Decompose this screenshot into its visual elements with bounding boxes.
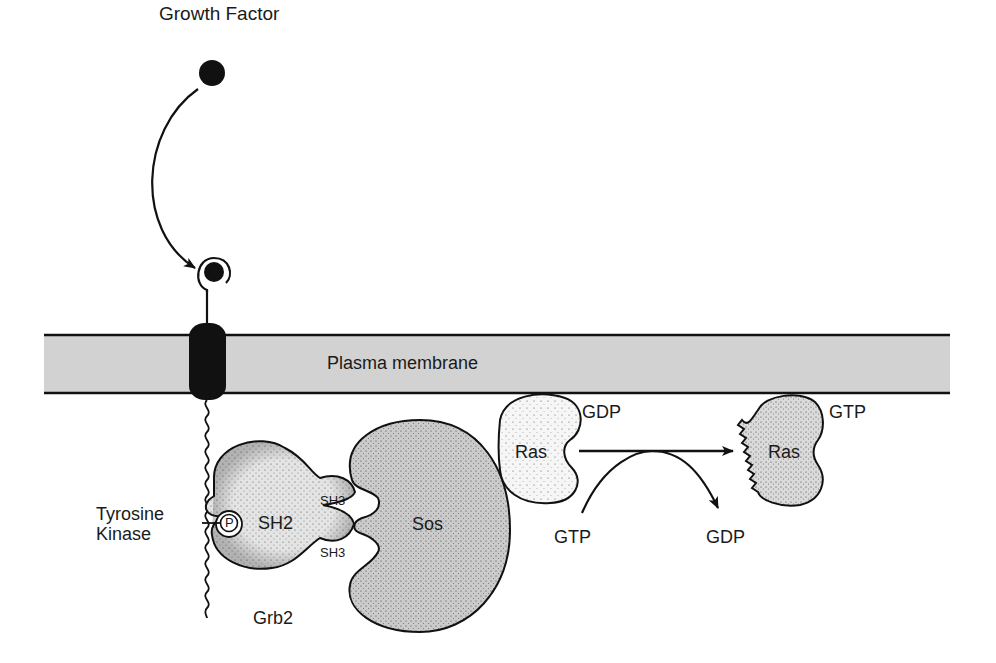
growth-factor-ligand <box>199 60 225 86</box>
ras-gdp-label: Ras <box>515 443 547 461</box>
sos-label: Sos <box>412 515 443 533</box>
growth-factor-label: Growth Factor <box>159 4 279 23</box>
binding-arrow <box>152 89 198 268</box>
gdp-output-label: GDP <box>706 528 745 546</box>
plasma-membrane-label: Plasma membrane <box>327 354 478 372</box>
gtp-gdp-exchange-arrow <box>582 451 718 513</box>
sh3-bottom-label: SH3 <box>320 546 345 559</box>
tyrosine-kinase-label-line1: Tyrosine <box>96 505 164 523</box>
ras-gtp-state-label: GTP <box>829 403 866 421</box>
sh3-top-label: SH3 <box>320 494 345 507</box>
receptor-transmembrane-domain <box>189 323 226 400</box>
tyrosine-kinase-label-line2: Kinase <box>96 525 151 543</box>
diagram-canvas <box>0 0 996 663</box>
gtp-input-label: GTP <box>554 528 591 546</box>
bound-ligand <box>204 262 224 282</box>
grb2-label: Grb2 <box>253 609 293 627</box>
ras-gtp-label: Ras <box>768 443 800 461</box>
ras-gdp-state-label: GDP <box>582 403 621 421</box>
phosphate-label: P <box>225 516 234 529</box>
sh2-label: SH2 <box>258 514 293 532</box>
plasma-membrane <box>44 335 950 393</box>
